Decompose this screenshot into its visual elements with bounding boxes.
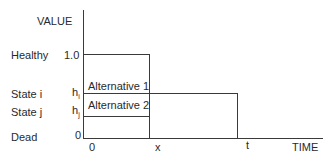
y-tick-state-i-sub: i	[78, 93, 80, 100]
y-axis-title: VALUE	[37, 15, 72, 27]
alternative-1-line	[83, 93, 237, 94]
state-label-state-j: State j	[11, 106, 42, 118]
y-axis-line	[83, 10, 84, 139]
alternative-1-label: Alternative 1	[88, 80, 149, 92]
alternative-2-label: Alternative 2	[88, 99, 149, 111]
x-tick-origin: 0	[89, 141, 95, 153]
y-tick-healthy: 1.0	[64, 49, 79, 61]
alternative-2-line	[83, 116, 149, 117]
health-state-value-diagram: VALUE Healthy State i State j Dead 1.0 h…	[0, 0, 335, 156]
x-tick-t: t	[246, 139, 249, 151]
t-time-vertical-line	[237, 93, 238, 139]
x-time-vertical-line	[149, 54, 150, 139]
x-axis-title: TIME	[292, 141, 318, 153]
y-tick-dead: 0	[75, 129, 81, 141]
x-tick-x: x	[155, 141, 161, 153]
state-label-healthy: Healthy	[11, 49, 48, 61]
y-tick-state-i: hi	[72, 86, 80, 100]
state-label-dead: Dead	[11, 131, 37, 143]
state-label-state-i: State i	[11, 88, 42, 100]
y-tick-state-j: hj	[72, 104, 80, 118]
healthy-value-line	[83, 54, 149, 55]
x-axis-line	[83, 138, 323, 139]
y-tick-state-j-sub: j	[78, 111, 80, 118]
